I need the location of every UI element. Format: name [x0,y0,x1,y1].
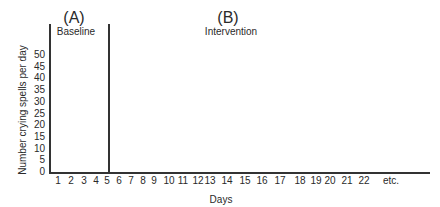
x-tick-label: 16 [256,176,267,186]
y-tick-label: 5 [25,155,45,165]
phase-a-label: (A) [63,10,84,26]
phase-b-name: Intervention [205,27,257,37]
phase-a-name: Baseline [57,27,95,37]
x-tick-label: 10 [163,176,174,186]
x-tick-label: 6 [116,176,122,186]
x-tick-label: 2 [68,176,74,186]
y-axis [49,24,51,173]
y-tick-label: 20 [25,120,45,130]
x-tick-label: 13 [204,176,215,186]
phase-b-label: (B) [217,10,238,26]
y-tick-label: 15 [25,132,45,142]
x-tick-label: 21 [341,176,352,186]
x-axis-label: Days [210,195,233,205]
x-axis [49,172,430,174]
x-tick-label: 9 [151,176,157,186]
y-tick-label: 35 [25,85,45,95]
x-tick-label: 8 [140,176,146,186]
y-tick-label: 0 [25,167,45,177]
x-tick-label: 18 [294,176,305,186]
y-tick-label: 45 [25,62,45,72]
x-tick-label: 3 [81,176,87,186]
x-tick-label: 11 [178,176,188,186]
x-tick-label: 1 [55,176,61,186]
x-tick-label: 12 [192,176,203,186]
x-tick-label: 15 [239,176,250,186]
x-tick-label: 17 [274,176,285,186]
x-tick-label: etc. [383,176,399,186]
x-tick-label: 19 [310,176,321,186]
x-tick-label: 7 [128,176,134,186]
x-tick-label: 22 [358,176,369,186]
y-tick-label: 50 [25,50,45,60]
x-tick-label: 20 [324,176,335,186]
y-tick-label: 10 [25,144,45,154]
x-tick-label: 14 [221,176,232,186]
x-tick-label: 5 [104,176,110,186]
y-tick-label: 25 [25,109,45,119]
y-tick-label: 40 [25,73,45,83]
phase-divider [108,24,110,173]
y-tick-label: 30 [25,97,45,107]
x-tick-label: 4 [93,176,99,186]
